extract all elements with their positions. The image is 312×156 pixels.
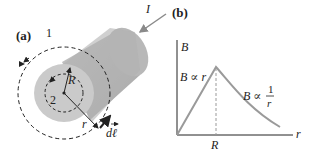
diagram-canvas: (a) 1 2 R r dℓ I (b) B r R B ∝ r B ∝ 1 r [0,0,312,156]
loop-1-label: 1 [46,26,52,40]
current-arrow [140,14,166,32]
dl-label: dℓ [106,126,117,140]
x-axis-label: r [296,127,301,141]
current-label: I [145,2,151,16]
outside-proportionality-label: B ∝ [243,89,261,103]
outside-frac-denominator: r [267,97,272,109]
loop-2-label: 2 [50,93,56,107]
inside-proportionality-label: B ∝ r [180,70,206,84]
panel-a: (a) 1 2 R r dℓ I [16,2,166,140]
loop-1-direction-icon [24,58,29,62]
outside-frac-numerator: 1 [268,83,274,95]
panel-a-label: (a) [16,28,31,43]
panel-b: (b) B r R B ∝ r B ∝ 1 r [172,5,301,152]
radius-r-label: r [82,117,87,131]
radius-R-label: R [67,73,76,87]
panel-b-label: (b) [172,5,188,20]
x-tick-R-label: R [210,138,219,152]
y-axis-label: B [181,40,189,54]
